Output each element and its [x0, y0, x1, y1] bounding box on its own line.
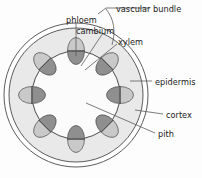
- vascular-bundle: [19, 87, 46, 104]
- label-pith: pith: [158, 129, 174, 139]
- vascular-bundle: [68, 126, 85, 153]
- label-cambium: cambium: [76, 26, 114, 36]
- label-vascular-bundle: vascular bundle: [116, 4, 181, 14]
- vascular-bundle: [107, 87, 134, 104]
- label-phloem: phloem: [66, 15, 97, 25]
- label-xylem: xylem: [118, 37, 143, 47]
- diagram-canvas: vascular bundle phloem cambium xylem epi…: [0, 0, 202, 178]
- label-epidermis: epidermis: [155, 77, 195, 87]
- stem-cross-section-svg: vascular bundle phloem cambium xylem epi…: [0, 0, 202, 178]
- label-cortex: cortex: [166, 110, 192, 120]
